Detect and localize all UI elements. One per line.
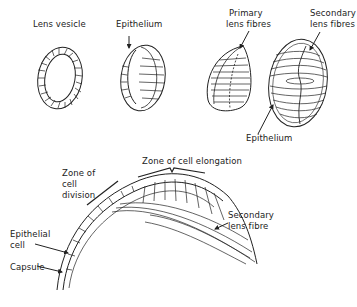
- label-primary-line2: lens fibres: [226, 19, 271, 29]
- epithelium-stage-drawing: [117, 36, 170, 114]
- label-epithelium-bottom: Epithelium: [246, 133, 292, 143]
- label-secondary-fibre-1: Secondary: [228, 210, 274, 220]
- primary-lens-fibres-drawing: [207, 31, 251, 111]
- label-secondary-fibre-2: lens fibre: [228, 221, 268, 231]
- label-primary-line1: Primary: [229, 8, 263, 18]
- label-epithelial-1: Epithelial: [10, 229, 50, 239]
- secondary-lens-fibres-drawing: [258, 32, 333, 134]
- label-secondary-line1: Secondary: [310, 8, 356, 18]
- lens-development-diagram: [0, 0, 357, 307]
- label-capsule: Capsule: [10, 262, 45, 272]
- lens-vesicle-drawing: [33, 44, 87, 113]
- label-secondary-line2: lens fibres: [310, 19, 355, 29]
- label-zone-division-2: cell: [62, 179, 77, 189]
- label-zone-division-1: Zone of: [62, 168, 95, 178]
- label-epithelial-2: cell: [10, 240, 25, 250]
- label-zone-elongation: Zone of cell elongation: [142, 156, 242, 166]
- label-lens-vesicle: Lens vesicle: [33, 19, 86, 29]
- label-epithelium-top: Epithelium: [116, 19, 162, 29]
- label-zone-division-3: division: [62, 190, 95, 200]
